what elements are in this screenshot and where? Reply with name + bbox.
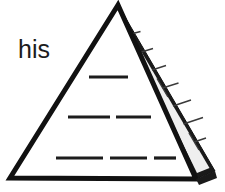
word-label: his [18,35,50,63]
pyramid-figure: his [0,0,225,192]
drawing-canvas: his [0,0,225,192]
